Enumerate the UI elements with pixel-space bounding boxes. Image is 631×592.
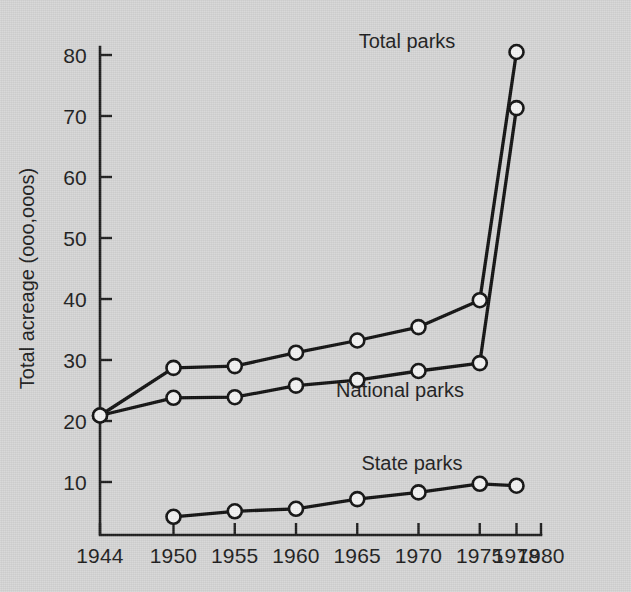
y-axis-tick-label: 60	[63, 166, 87, 189]
data-point-marker	[228, 359, 242, 373]
x-axis-tick-label: 1950	[150, 544, 198, 567]
data-point-marker	[289, 502, 303, 516]
y-axis-tick-label: 70	[63, 105, 87, 128]
series-line-2	[174, 484, 517, 517]
data-point-marker	[93, 409, 107, 423]
data-point-marker	[289, 346, 303, 360]
chart-axes	[100, 47, 541, 535]
x-axis-tick-label: 1944	[76, 544, 124, 567]
series-line-1	[100, 108, 517, 415]
x-axis-tick-label: 1955	[211, 544, 259, 567]
x-axis-tick-label: 1960	[272, 544, 320, 567]
data-point-marker	[350, 334, 364, 348]
data-point-marker	[473, 356, 487, 370]
chart-figure: 1020304050607080194419501955196019651970…	[0, 0, 631, 592]
y-axis-tick-label: 50	[63, 227, 87, 250]
y-axis-title: Total acreage (ooo,ooos)	[16, 168, 38, 389]
data-point-marker	[473, 293, 487, 307]
x-axis-tick-label: 1965	[333, 544, 381, 567]
data-point-marker	[167, 510, 181, 524]
data-point-marker	[228, 390, 242, 404]
y-axis-tick-label: 10	[63, 471, 87, 494]
data-point-marker	[350, 492, 364, 506]
data-point-marker	[412, 364, 426, 378]
state-parks-label: State parks	[361, 452, 462, 474]
total-parks-label: Total parks	[359, 30, 456, 52]
y-axis-tick-label: 30	[63, 349, 87, 372]
data-point-marker	[510, 479, 524, 493]
y-axis-tick-label: 20	[63, 410, 87, 433]
x-axis-tick-label: 1980	[517, 544, 565, 567]
data-point-marker	[510, 101, 524, 115]
y-axis-tick-label: 40	[63, 288, 87, 311]
y-axis-tick-label: 80	[63, 44, 87, 67]
national-parks-label: National parks	[336, 379, 464, 401]
line-chart: 1020304050607080194419501955196019651970…	[0, 0, 631, 592]
data-point-marker	[412, 320, 426, 334]
x-axis-tick-label: 1970	[395, 544, 443, 567]
data-point-marker	[473, 477, 487, 491]
data-point-marker	[167, 391, 181, 405]
data-point-marker	[167, 361, 181, 375]
data-point-marker	[412, 485, 426, 499]
data-point-marker	[228, 504, 242, 518]
data-point-marker	[289, 379, 303, 393]
data-point-marker	[510, 45, 524, 59]
series-line-0	[100, 52, 517, 416]
